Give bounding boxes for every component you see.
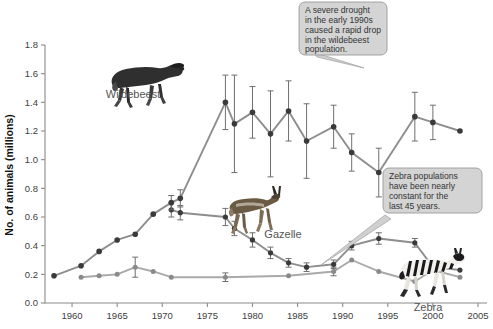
data-point bbox=[150, 211, 156, 217]
data-point bbox=[304, 265, 309, 270]
gazelle-label: Gazelle bbox=[264, 228, 301, 240]
callout-zebra-line-3: constant for the bbox=[389, 191, 448, 201]
data-point bbox=[232, 121, 238, 127]
x-tick-label: 1965 bbox=[107, 310, 128, 321]
data-point bbox=[376, 269, 381, 274]
data-point bbox=[168, 200, 174, 206]
data-point bbox=[331, 269, 336, 274]
data-point bbox=[151, 269, 156, 274]
chart-svg: No. of animals (millions) 0.00.20.40.60.… bbox=[0, 0, 493, 329]
data-point bbox=[133, 265, 138, 270]
x-tick-label: 1960 bbox=[61, 310, 82, 321]
data-point bbox=[286, 108, 292, 114]
callout-zebra-line-4: last 45 years. bbox=[389, 201, 440, 211]
x-tick-label: 1990 bbox=[332, 310, 353, 321]
callout-zebra-line-1: Zebra populations bbox=[389, 171, 458, 181]
y-tick-label: 1.6 bbox=[25, 68, 38, 79]
y-tick-label: 1.0 bbox=[25, 154, 38, 165]
zebra-label: Zebra bbox=[414, 301, 444, 313]
x-tick-label: 1980 bbox=[242, 310, 263, 321]
x-tick-label: 1985 bbox=[287, 310, 308, 321]
y-axis-title: No. of animals (millions) bbox=[3, 114, 15, 235]
data-point bbox=[268, 131, 274, 137]
y-tick-label: 0.8 bbox=[25, 183, 38, 194]
data-point bbox=[376, 170, 382, 176]
callout-zebra: Zebra populations have been nearly const… bbox=[321, 168, 482, 265]
data-point bbox=[412, 240, 417, 245]
data-point bbox=[457, 267, 462, 272]
data-point bbox=[349, 150, 355, 156]
y-tick-labels: 0.00.20.40.60.81.01.21.41.61.8 bbox=[25, 39, 38, 308]
x-tick-label: 2005 bbox=[467, 310, 488, 321]
population-chart-figure: No. of animals (millions) 0.00.20.40.60.… bbox=[0, 0, 493, 329]
x-tick-label: 1975 bbox=[197, 310, 218, 321]
callout-drought: A severe drought in the early 1990s caus… bbox=[299, 2, 387, 68]
callout-zebra-line-2: have been nearly bbox=[389, 181, 456, 191]
y-tick-label: 1.8 bbox=[25, 39, 38, 50]
data-point bbox=[286, 273, 291, 278]
data-point bbox=[304, 138, 310, 144]
data-point bbox=[268, 250, 273, 255]
data-point bbox=[79, 275, 84, 280]
data-point bbox=[97, 273, 102, 278]
data-point bbox=[132, 231, 138, 237]
data-point bbox=[250, 237, 255, 242]
y-tick-label: 0.0 bbox=[25, 297, 38, 308]
data-point bbox=[457, 128, 463, 134]
callout-drought-line-3: caused a rapid drop bbox=[305, 25, 381, 35]
y-tick-label: 0.2 bbox=[25, 269, 38, 280]
callout-drought-line-5: population. bbox=[305, 44, 347, 54]
wildebeest-label: Wildebeest bbox=[106, 88, 160, 100]
data-point bbox=[51, 273, 57, 279]
data-point bbox=[223, 214, 228, 219]
data-point bbox=[78, 263, 84, 269]
data-point bbox=[457, 275, 462, 280]
data-point bbox=[331, 262, 336, 267]
y-tick-label: 1.2 bbox=[25, 125, 38, 136]
data-point bbox=[430, 120, 436, 126]
data-point bbox=[376, 236, 381, 241]
data-point bbox=[223, 275, 228, 280]
data-point bbox=[96, 249, 102, 255]
y-tick-label: 0.4 bbox=[25, 240, 38, 251]
callout-drought-line-2: in the early 1990s bbox=[305, 15, 373, 25]
wildebeest-illustration: Wildebeest bbox=[106, 63, 184, 108]
y-tick-label: 1.4 bbox=[25, 97, 38, 108]
x-tick-label: 1970 bbox=[152, 310, 173, 321]
data-point bbox=[286, 260, 291, 265]
y-tick-label: 0.6 bbox=[25, 211, 38, 222]
data-point bbox=[349, 258, 354, 263]
data-point bbox=[115, 272, 120, 277]
data-point bbox=[412, 114, 418, 120]
data-point bbox=[114, 237, 120, 243]
data-point bbox=[169, 275, 174, 280]
data-point bbox=[178, 196, 184, 202]
data-point bbox=[178, 210, 183, 215]
data-point bbox=[223, 100, 229, 106]
data-point bbox=[331, 124, 337, 130]
callout-drought-line-1: A severe drought bbox=[305, 5, 371, 15]
data-point bbox=[250, 110, 256, 116]
x-tick-label: 1995 bbox=[377, 310, 398, 321]
